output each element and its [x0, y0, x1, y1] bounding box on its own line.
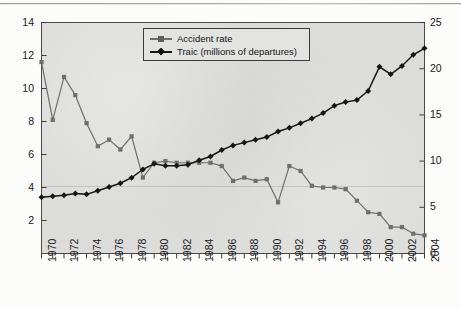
x-axis-tick-label: 1986	[226, 238, 238, 261]
left-axis-tick-label: 4	[8, 181, 34, 193]
x-axis-tick-label: 1990	[271, 238, 283, 261]
left-axis-tick-label: 14	[8, 16, 34, 28]
left-axis-tick-label: 6	[8, 148, 34, 160]
legend-entry-traffic: Traic (millions of departures)	[150, 46, 297, 57]
right-axis-tick-label: 25	[430, 16, 456, 28]
x-axis-tick-label: 2000	[383, 238, 395, 261]
right-axis-tick-label: 15	[430, 108, 456, 120]
left-axis-tick-label: 8	[8, 115, 34, 127]
legend-entry-accident-rate: Accident rate	[150, 33, 232, 44]
x-axis-tick-label: 1996	[338, 238, 350, 261]
x-axis-tick-label: 1980	[158, 238, 170, 261]
legend-label-traffic: Traic (millions of departures)	[177, 46, 297, 57]
x-axis-tick-label: 1974	[91, 238, 103, 261]
right-axis-tick-label: 5	[430, 200, 456, 212]
x-axis-tick-label: 1998	[361, 238, 373, 261]
legend-marker-square-icon	[150, 34, 172, 43]
dual-axis-line-chart: 2468101214 0510152025 197019721974197619…	[0, 0, 461, 309]
x-axis-tick-label: 2002	[406, 238, 418, 261]
legend-marker-diamond-icon	[150, 47, 172, 56]
x-axis-tick-label: 1970	[46, 238, 58, 261]
left-axis-tick-label: 2	[8, 214, 34, 226]
x-axis-tick-label: 1972	[68, 238, 80, 261]
x-axis-tick-label: 1988	[248, 238, 260, 261]
legend-label-accident-rate: Accident rate	[177, 33, 232, 44]
left-axis-tick-label: 10	[8, 82, 34, 94]
chart-screenshot: 2468101214 0510152025 197019721974197619…	[0, 0, 461, 309]
right-axis-tick-label: 10	[430, 154, 456, 166]
x-axis-tick-label: 1984	[203, 238, 215, 261]
right-axis-tick-label: 20	[430, 62, 456, 74]
x-axis-tick-label: 2004	[429, 238, 441, 261]
left-axis-tick-label: 12	[8, 49, 34, 61]
x-axis-tick-label: 1976	[113, 238, 125, 261]
x-axis-tick-label: 1994	[316, 238, 328, 261]
x-axis-tick-label: 1992	[293, 238, 305, 261]
data-series-group	[39, 45, 428, 237]
x-axis-tick-label: 1982	[181, 238, 193, 261]
x-axis-tick-label: 1978	[136, 238, 148, 261]
chart-legend: Accident rate Traic (millions of departu…	[143, 28, 310, 61]
